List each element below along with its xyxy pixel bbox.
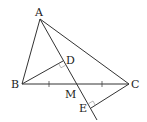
label-m: M bbox=[65, 88, 76, 101]
label-c: C bbox=[131, 78, 139, 91]
label-a: A bbox=[34, 6, 44, 19]
segment-ac bbox=[40, 19, 129, 84]
segment-ce bbox=[91, 84, 129, 108]
right-angle-e bbox=[89, 101, 96, 105]
label-e: E bbox=[79, 102, 87, 115]
label-b: B bbox=[11, 78, 19, 91]
right-angle-d bbox=[59, 64, 66, 68]
geometry-diagram: A B C D M E bbox=[0, 0, 147, 122]
segment-ab bbox=[22, 19, 40, 84]
segment-bd bbox=[22, 61, 63, 84]
label-d: D bbox=[66, 54, 75, 67]
